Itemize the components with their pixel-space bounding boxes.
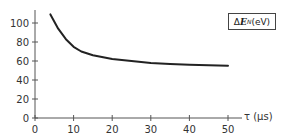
y-tick-label: 80: [16, 37, 29, 48]
y-tick-label: 40: [16, 75, 29, 86]
x-tick-label: 50: [222, 124, 235, 135]
y-tick-label: 20: [16, 94, 29, 105]
x-tick-label: 30: [144, 124, 157, 135]
y-tick-label: 0: [23, 113, 29, 124]
legend-symbol: E: [240, 17, 247, 27]
y-tick-label: 60: [16, 56, 29, 67]
x-tick-label: 40: [183, 124, 196, 135]
x-tick-label: 10: [67, 124, 80, 135]
y-tick-label: 100: [10, 18, 29, 29]
x-tick-label: 20: [106, 124, 119, 135]
x-axis-label: τ (μs): [244, 111, 273, 122]
legend-unit: (eV): [251, 17, 270, 27]
data-curve: [50, 14, 228, 65]
x-tick-label: 0: [32, 124, 38, 135]
legend-box: ΔEN (eV): [228, 13, 276, 30]
